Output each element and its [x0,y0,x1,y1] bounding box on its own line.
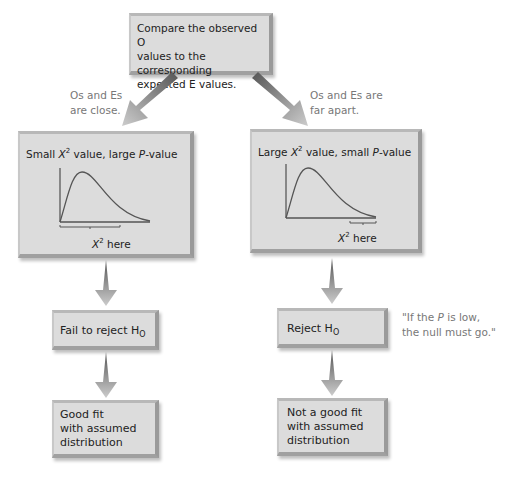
large-chi-square-panel: Large X2 value, small P-value X2 here [250,129,422,253]
axis-label: X2 here [338,228,377,246]
quote-note: "If the P is low, the null must go." [402,310,496,340]
reject-box: Reject HO [277,308,388,348]
arrow-down-icon [320,350,344,398]
close-note: Os and Es are close. [70,88,122,118]
panel-title: Small X2 value, large P-value [26,144,177,162]
arrow-down-icon [94,260,118,308]
not-good-fit-box: Not a good fit with assumed distribution [277,398,388,456]
axis-label: X2 here [92,234,131,252]
chi-square-curve-icon [58,166,158,236]
fail-to-reject-box: Fail to reject HO [52,310,159,350]
good-fit-box: Good fit with assumed distribution [52,400,159,458]
arrow-down-icon [94,352,118,400]
small-chi-square-panel: Small X2 value, large P-value X2 here [18,131,194,258]
apart-note: Os and Es are far apart. [310,88,383,118]
chi-square-curve-icon [284,162,384,232]
compare-box: Compare the observed O values to the cor… [129,13,273,75]
arrow-down-icon [320,258,344,306]
panel-title: Large X2 value, small P-value [258,142,411,160]
compare-line-1: Compare the observed O [137,21,263,49]
